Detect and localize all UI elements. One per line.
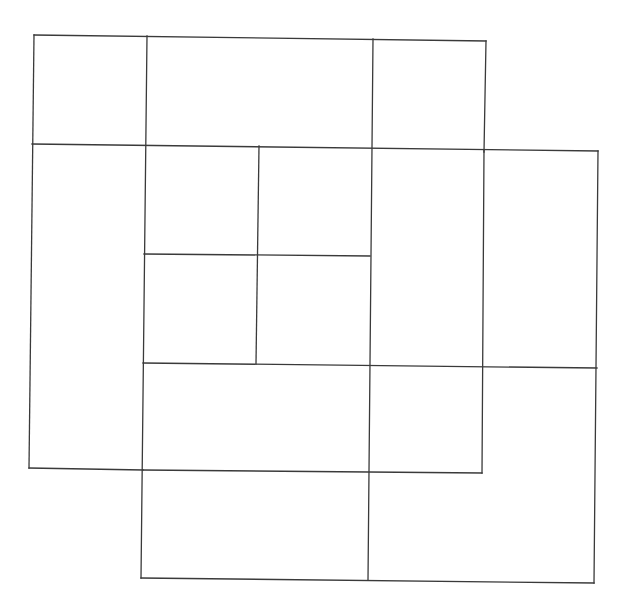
diagram-lines <box>29 35 598 583</box>
line-v-485 <box>482 150 484 473</box>
line-A-top <box>34 35 486 41</box>
line-B-right <box>594 151 598 583</box>
line-v-147 <box>141 36 147 578</box>
line-A-left <box>29 35 34 468</box>
line-v-373 <box>368 39 373 580</box>
line-A-right-upper <box>484 41 486 152</box>
line-A-bottom-right <box>143 470 482 473</box>
overlapping-squares-diagram <box>0 0 627 613</box>
line-A-h1 <box>32 144 598 151</box>
line-A-bottom-left <box>29 468 143 470</box>
